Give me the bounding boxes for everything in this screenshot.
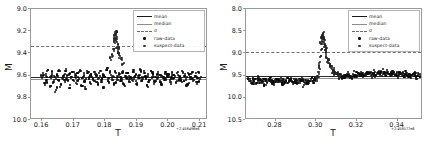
legend-label-median: median [368, 21, 387, 26]
x-tick-mark [41, 119, 42, 121]
raw-data-point [404, 70, 406, 72]
legend-row-median: median [136, 20, 202, 27]
raw-data-point [83, 80, 85, 82]
raw-data-point [115, 81, 117, 83]
x-tick-label: 0.17 [61, 121, 85, 129]
legend-label-raw-data: raw-data [368, 36, 390, 41]
legend-raw-data-dot-icon [351, 35, 368, 42]
legend-row-sigma: σ [351, 27, 417, 34]
raw-data-point [78, 71, 80, 73]
raw-data-point [420, 73, 422, 75]
raw-data-point [191, 72, 193, 74]
raw-data-point [146, 76, 148, 78]
raw-data-point [56, 86, 58, 88]
raw-data-point [141, 76, 143, 78]
raw-data-point [343, 76, 345, 78]
suspect-data-point [333, 69, 335, 71]
raw-data-point [68, 87, 70, 89]
legend-label-mean: mean [368, 14, 382, 19]
raw-data-point [410, 77, 412, 79]
suspect-data-point [318, 64, 320, 66]
figure-lightcurve-pair: M T +2.458496e6 mean median σ raw-data s… [0, 0, 431, 144]
raw-data-point [140, 80, 142, 82]
suspect-data-point [319, 56, 321, 58]
legend-row-mean: mean [351, 13, 417, 20]
y-tick-mark [243, 119, 245, 120]
x-tick-mark [315, 119, 316, 121]
suspect-data-point [328, 59, 330, 61]
legend-row-mean: mean [136, 13, 202, 20]
raw-data-point [41, 77, 43, 79]
left-panel: M T +2.458496e6 mean median σ raw-data s… [0, 0, 215, 144]
raw-data-point [192, 78, 194, 80]
raw-data-point [299, 82, 301, 84]
suspect-data-point [317, 76, 319, 78]
x-tick-label: 0.20 [155, 121, 179, 129]
legend-row-sigma: σ [136, 27, 202, 34]
raw-data-point [124, 85, 126, 87]
raw-data-point [95, 74, 97, 76]
y-tick-label: 9.6 [0, 71, 27, 79]
raw-data-point [102, 87, 104, 89]
legend-label-suspect-data: suspect-data [368, 43, 399, 48]
y-tick-label: 9.0 [0, 5, 27, 13]
suspect-data-point [340, 73, 342, 75]
y-tick-mark [243, 30, 245, 31]
raw-data-point [170, 83, 172, 85]
raw-data-point [91, 76, 93, 78]
suspect-data-point [112, 55, 114, 57]
raw-data-point [134, 75, 136, 77]
legend-mean-line-icon [136, 13, 153, 20]
y-tick-label: 8.0 [215, 5, 242, 13]
legend-suspect-data-dot-icon [136, 42, 153, 49]
x-tick-label: 0.28 [263, 121, 287, 129]
raw-data-point [316, 80, 318, 82]
legend-median-line-icon [136, 20, 153, 27]
legend-label-median: median [153, 21, 172, 26]
raw-data-point [54, 91, 56, 93]
suspect-data-point [318, 71, 320, 73]
raw-data-point [179, 75, 181, 77]
y-tick-mark [28, 30, 30, 31]
y-tick-label: 10.0 [215, 93, 242, 101]
raw-data-point [116, 77, 118, 79]
x-tick-label: 0.30 [303, 121, 327, 129]
raw-data-point [76, 83, 78, 85]
x-tick-label: 0.32 [344, 121, 368, 129]
y-tick-mark [28, 8, 30, 9]
raw-data-point [132, 80, 134, 82]
legend-suspect-data-dot-icon [351, 42, 368, 49]
y-tick-mark [243, 97, 245, 98]
x-tick-mark [167, 119, 168, 121]
raw-data-point [172, 78, 174, 80]
legend-row-median: median [351, 20, 417, 27]
legend-median-line-icon [351, 20, 368, 27]
x-tick-mark [356, 119, 357, 121]
raw-data-point [302, 86, 304, 88]
raw-data-point [44, 84, 46, 86]
raw-data-point [381, 75, 383, 77]
raw-data-point [100, 70, 102, 72]
raw-data-point [53, 75, 55, 77]
raw-data-point [147, 73, 149, 75]
legend-row-raw-data: raw-data [351, 35, 417, 42]
suspect-data-point [319, 68, 321, 70]
raw-data-point [157, 76, 159, 78]
left-plot-area: mean median σ raw-data suspect-data [30, 8, 207, 119]
y-tick-label: 9.8 [0, 93, 27, 101]
y-tick-label: 9.4 [0, 49, 27, 57]
legend-label-sigma: σ [153, 28, 157, 33]
raw-data-point [371, 77, 373, 79]
raw-data-point [108, 82, 110, 84]
legend-label-raw-data: raw-data [153, 36, 175, 41]
y-tick-label: 9.5 [215, 71, 242, 79]
raw-data-point [419, 76, 421, 78]
y-tick-label: 10.0 [0, 116, 27, 124]
raw-data-point [57, 79, 59, 81]
y-tick-mark [243, 8, 245, 9]
raw-data-point [374, 76, 376, 78]
legend-label-suspect-data: suspect-data [153, 43, 184, 48]
y-tick-label: 9.0 [215, 49, 242, 57]
raw-data-point [64, 81, 66, 83]
y-tick-mark [28, 119, 30, 120]
